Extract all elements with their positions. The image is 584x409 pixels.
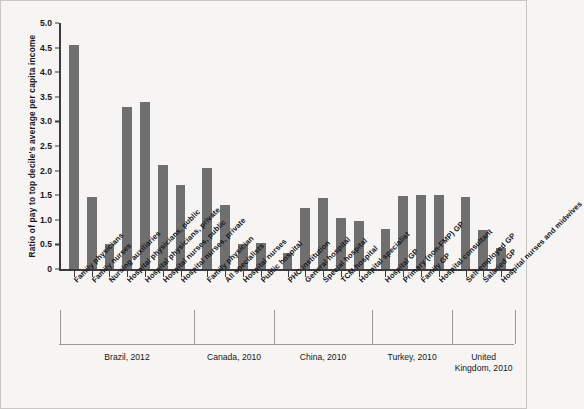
y-tick-label: 4.0 [40, 67, 52, 77]
y-tick-label: 3.5 [40, 92, 52, 102]
group-separator [60, 310, 61, 344]
y-axis-title: Ratio of pay to top decile's average per… [27, 21, 37, 271]
y-tick-label: 3.0 [40, 116, 52, 126]
group-label: China, 2010 [274, 352, 372, 363]
y-tick-label: 1.0 [40, 215, 52, 225]
y-tick-label: 2.0 [40, 166, 52, 176]
y-tick-label: 0.5 [40, 239, 52, 249]
group-separator [452, 310, 453, 344]
y-tick-label: 2.5 [40, 141, 52, 151]
group-separator [515, 310, 516, 344]
bar [69, 45, 79, 269]
group-separator [194, 310, 195, 344]
group-separator [372, 310, 373, 344]
y-tick-label: 0 [47, 264, 52, 274]
group-separator [274, 310, 275, 344]
group-label: Canada, 2010 [194, 352, 274, 363]
group-band-line [59, 344, 514, 345]
y-tick-label: 1.5 [40, 190, 52, 200]
y-tick-label: 5.0 [40, 18, 52, 28]
group-label: Turkey, 2010 [372, 352, 452, 363]
group-label: Brazil, 2012 [60, 352, 194, 363]
y-tick-label: 4.5 [40, 43, 52, 53]
group-label: United Kingdom, 2010 [452, 352, 515, 373]
